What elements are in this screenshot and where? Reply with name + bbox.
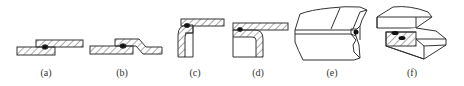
weld-bead-icon <box>42 45 48 49</box>
figure-label-e: (e) <box>317 67 347 79</box>
figure-f-isometric-lap <box>377 7 446 59</box>
figure-label-f: (f) <box>397 67 427 79</box>
weld-bead-icon <box>354 30 359 35</box>
figure-c-flanged-lap-joint <box>178 19 224 57</box>
figure-b-joggled-lap-joint <box>90 39 162 54</box>
figure-d-inverted-flange-joint <box>233 23 288 57</box>
figure-label-b: (b) <box>107 67 137 79</box>
weld-bead-icon <box>184 24 190 28</box>
weld-bead-icon <box>399 36 406 40</box>
figure-e-isometric-joggled-lap <box>295 7 367 60</box>
weld-bead-icon <box>392 31 399 35</box>
diagram-canvas <box>0 0 464 86</box>
figure-a-lap-joint <box>17 40 83 55</box>
figure-label-a: (a) <box>31 67 61 79</box>
welded-joint-diagram: (a) (b) (c) (d) (e) (f) <box>0 0 464 86</box>
weld-bead-icon <box>237 28 242 32</box>
figure-label-c: (c) <box>180 67 210 79</box>
figure-label-d: (d) <box>243 67 273 79</box>
weld-bead-icon <box>120 44 126 48</box>
